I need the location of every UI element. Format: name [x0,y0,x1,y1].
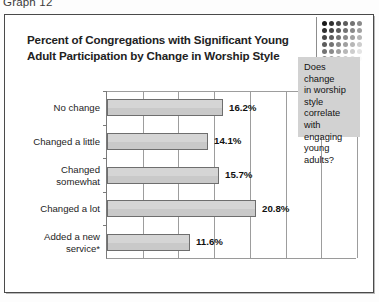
matrix-dot [343,28,348,33]
figure-caption: Graph 12 [3,0,53,8]
matrix-dot [343,35,348,40]
matrix-dot [357,28,362,33]
matrix-dot [357,21,362,26]
matrix-dot [329,28,334,33]
matrix-dot [336,21,341,26]
matrix-dot [322,49,327,54]
matrix-dot [350,28,355,33]
dot-matrix-decoration-icon [321,20,363,62]
axis-tick [103,125,107,126]
chart-frame: Percent of Congregations with Significan… [4,14,374,293]
matrix-dot [329,35,334,40]
category-label-line: service* [66,243,100,254]
matrix-dot [357,35,362,40]
matrix-dot [350,21,355,26]
bar [107,133,208,150]
matrix-dot [357,49,362,54]
bar-value-label: 14.1% [214,135,241,146]
category-label-line: Added a new [44,231,100,242]
matrix-dot [336,49,341,54]
bar [107,167,219,184]
matrix-dot [357,42,362,47]
category-label: Changedsomewhat [2,164,100,187]
bar [107,99,223,116]
category-label-line: Changed [61,164,100,175]
bar-highlight [108,134,207,142]
matrix-dot [343,21,348,26]
matrix-dot [336,35,341,40]
bar-highlight [108,201,255,209]
category-label-column: No changeChanged a littleChangedsomewhat… [5,77,106,259]
matrix-dot [329,42,334,47]
bar-value-label: 11.6% [196,236,223,247]
screenshot-page: Graph 12 Percent of Congregations with S… [0,0,379,302]
category-label-line: No change [54,102,100,113]
bar [107,234,190,251]
matrix-dot [329,21,334,26]
category-label: Added a newservice* [2,231,100,254]
matrix-dot [329,49,334,54]
matrix-dot [350,42,355,47]
matrix-dot [343,42,348,47]
chart-title: Percent of Congregations with Significan… [27,32,295,63]
category-label: Changed a little [2,136,100,148]
bar-value-label: 15.7% [225,169,252,180]
callout-line-3: style correlate [304,97,340,119]
bar-value-label: 20.8% [262,203,289,214]
bar-highlight [108,235,189,243]
matrix-dot [350,35,355,40]
axis-tick [103,158,107,159]
callout-box: Does change in worship style correlate w… [298,57,360,137]
gridline [286,91,287,258]
matrix-dot [322,42,327,47]
matrix-dot [343,49,348,54]
category-label: Changed a lot [2,203,100,215]
callout-line-4: with engaging [304,120,342,142]
matrix-dot [350,49,355,54]
bar-value-label: 16.2% [229,102,256,113]
category-label-line: Changed a little [33,136,100,147]
matrix-dot [322,35,327,40]
bar-highlight [108,100,222,108]
callout-line-2: in worship [304,85,346,95]
axis-tick [103,91,107,92]
axis-tick [103,192,107,193]
matrix-dot [322,28,327,33]
axis-tick [103,225,107,226]
bar [107,200,256,217]
callout-line-1: Does change [304,62,335,84]
category-label-line: somewhat [56,176,100,187]
bar-highlight [108,168,218,176]
matrix-dot [322,21,327,26]
chart-title-line-1: Percent of Congregations with Significan… [27,32,295,48]
chart-title-line-2: Adult Participation by Change in Worship… [27,48,295,64]
category-label: No change [2,102,100,114]
category-label-line: Changed a lot [40,203,100,214]
matrix-dot [336,28,341,33]
matrix-dot [336,42,341,47]
